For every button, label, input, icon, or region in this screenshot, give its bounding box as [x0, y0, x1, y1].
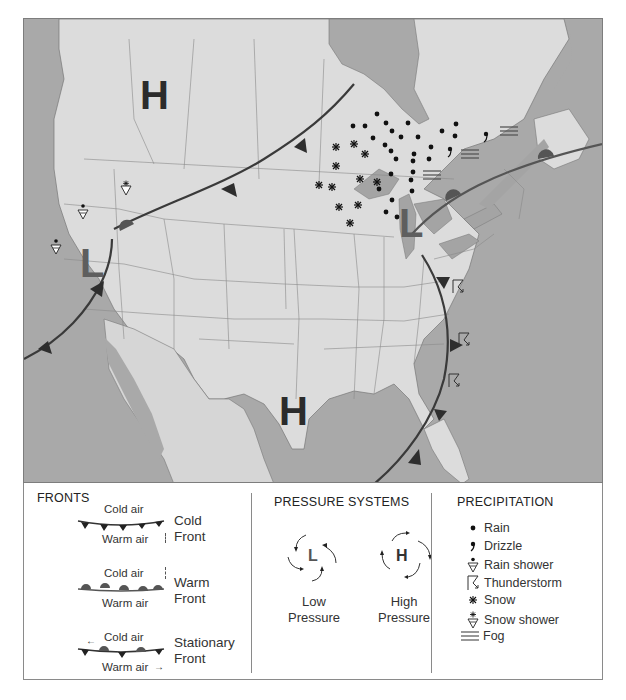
fog-icon	[457, 630, 483, 642]
warm-front-name: WarmFront	[174, 575, 210, 607]
cropped-caption	[70, 688, 550, 694]
land-layer	[54, 19, 603, 483]
precip-item-thunderstorm: Thunderstorm	[462, 575, 562, 591]
cold-front-bottom-label: Warm air	[102, 533, 148, 545]
legend-panel: FRONTS Cold air Warm air ColdFront Cold …	[23, 483, 603, 680]
precip-item-rain-shower: Rain shower	[462, 557, 553, 573]
legend-pressure: PRESSURE SYSTEMS L LowPressure H	[252, 483, 432, 679]
stationary-front-name: StationaryFront	[174, 635, 235, 667]
warm-front-icon	[76, 579, 166, 595]
low-pressure-icon: L	[282, 523, 346, 587]
stationary-front-top-label: Cold air	[104, 631, 144, 643]
svg-text:H: H	[396, 547, 408, 564]
cold-front-name: ColdFront	[174, 513, 206, 545]
arrow-down-icon	[165, 533, 167, 543]
high-pressure-icon: H	[372, 523, 436, 587]
precip-item-snow: Snow	[462, 593, 515, 607]
cold-front-top-label: Cold air	[104, 503, 144, 515]
precipitation-title: PRECIPITATION	[457, 495, 554, 509]
low-pressure-name: LowPressure	[274, 594, 354, 626]
map-canvas: H L H L	[24, 19, 603, 483]
snow-shower-icon	[462, 611, 484, 629]
legend-fronts: FRONTS Cold air Warm air ColdFront Cold …	[24, 483, 244, 679]
precip-item-fog: Fog	[457, 629, 505, 643]
arrow-up-icon	[165, 567, 167, 579]
precip-item-rain: Rain	[462, 521, 510, 535]
low-pressure-label: L	[399, 201, 423, 245]
thunderstorm-icon	[462, 575, 484, 591]
precip-item-snow-shower: Snow shower	[462, 611, 559, 629]
stationary-front-icon	[76, 643, 166, 661]
svg-text:L: L	[308, 547, 318, 564]
rain-icon	[462, 523, 484, 533]
cold-front-icon	[76, 517, 166, 533]
drizzle-icon	[462, 540, 484, 552]
precip-item-drizzle: Drizzle	[462, 539, 522, 553]
snow-icon	[462, 595, 484, 605]
legend-precipitation: PRECIPITATION Rain Drizzle Rain shower T…	[432, 483, 604, 679]
low-pressure-label: L	[80, 241, 104, 285]
arrow-right-icon: →	[154, 661, 164, 672]
fronts-title: FRONTS	[37, 491, 90, 505]
high-pressure-label: H	[140, 73, 169, 117]
pressure-title: PRESSURE SYSTEMS	[274, 495, 409, 509]
stationary-front-bottom-label: Warm air	[102, 661, 148, 673]
weather-map: H L H L	[23, 18, 603, 483]
warm-front-bottom-label: Warm air	[102, 597, 148, 609]
warm-front-top-label: Cold air	[104, 567, 144, 579]
high-pressure-label: H	[279, 389, 308, 433]
rain-shower-icon	[462, 557, 484, 573]
